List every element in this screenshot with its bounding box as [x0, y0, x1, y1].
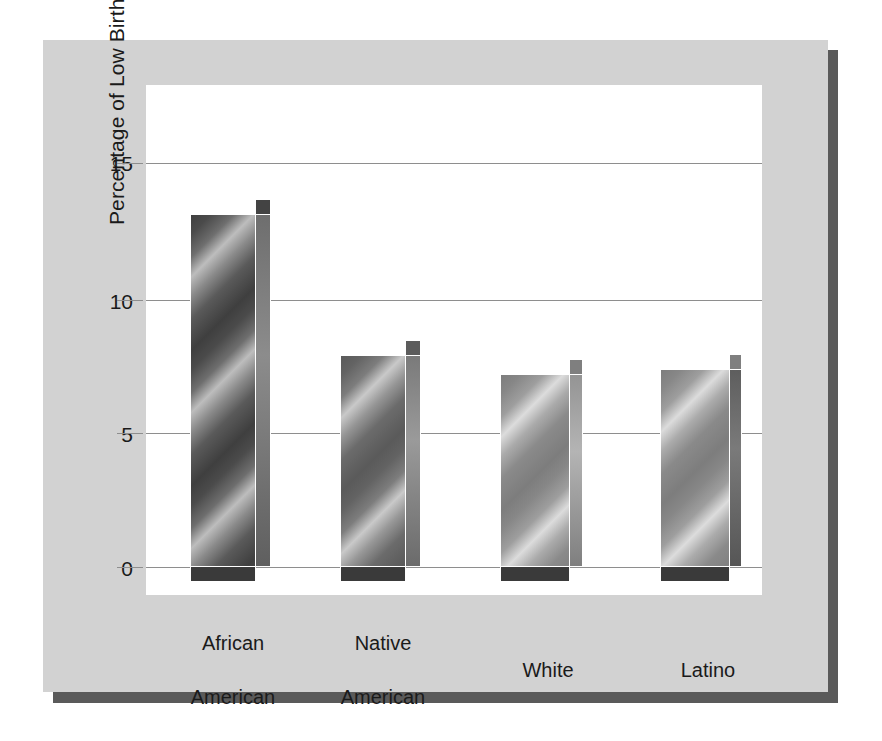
x-axis-category-labels: African American Native American White L… — [146, 603, 762, 683]
bar-base-face — [500, 566, 570, 582]
bar-base-face — [340, 566, 406, 582]
category-label-african-american: African American — [168, 603, 298, 738]
bar-top-face — [255, 199, 271, 215]
bar-front-face — [660, 369, 730, 567]
category-label-line1: White — [483, 657, 613, 684]
category-label-white: White — [483, 630, 613, 711]
chart-panel: Percentage of Low Birth Weight 15 10 5 0 — [43, 40, 828, 692]
bar-top-face — [405, 340, 421, 356]
bar-top-face — [729, 354, 742, 370]
category-label-native-american: Native American — [318, 603, 448, 738]
category-label-line2: American — [168, 684, 298, 711]
bar-side-face — [405, 355, 421, 567]
category-label-line1: Latino — [643, 657, 773, 684]
bar-base-face — [190, 566, 256, 582]
tick-mark-15 — [117, 163, 143, 164]
category-label-latino: Latino — [643, 630, 773, 711]
bar-white — [500, 374, 583, 567]
category-label-line2: American — [318, 684, 448, 711]
bar-side-face — [729, 369, 742, 567]
bar-latino — [660, 369, 742, 567]
bar-african-american — [190, 214, 271, 567]
bar-side-face — [255, 214, 271, 567]
bar-base-face — [660, 566, 730, 582]
bar-side-face — [569, 374, 583, 567]
category-label-line1: Native — [318, 630, 448, 657]
bar-top-face — [569, 359, 583, 375]
category-label-line1: African — [168, 630, 298, 657]
gridline-15 — [146, 163, 762, 164]
y-axis-title: Percentage of Low Birth Weight — [105, 0, 129, 225]
chart-figure: Percentage of Low Birth Weight 15 10 5 0 — [0, 0, 882, 741]
bar-front-face — [340, 355, 406, 567]
bar-native-american — [340, 355, 421, 567]
bar-front-face — [190, 214, 256, 567]
tick-mark-0 — [117, 567, 143, 568]
tick-mark-5 — [117, 433, 143, 434]
y-tick-label-0: 0 — [41, 558, 133, 579]
tick-mark-10 — [117, 300, 143, 301]
plot-area — [146, 85, 762, 595]
y-tick-label-5: 5 — [41, 424, 133, 445]
y-tick-label-10: 10 — [41, 291, 133, 312]
bar-front-face — [500, 374, 570, 567]
